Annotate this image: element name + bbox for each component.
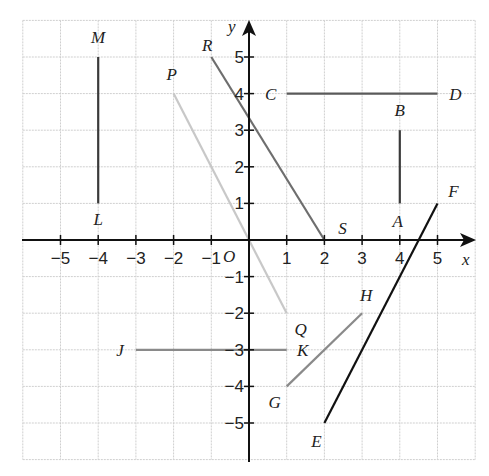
y-axis-label: y — [226, 17, 236, 36]
point-label-q: Q — [295, 320, 307, 339]
y-tick-label: −3 — [225, 341, 244, 360]
x-tick-label: −1 — [202, 249, 221, 268]
y-tick-label: −4 — [225, 377, 244, 396]
y-tick-label: 3 — [235, 121, 244, 140]
y-tick-label: −2 — [225, 304, 244, 323]
x-tick-label: −4 — [89, 249, 108, 268]
x-tick-label: 4 — [395, 249, 404, 268]
point-label-k: K — [296, 341, 310, 360]
point-label-e: E — [310, 432, 322, 451]
origin-label: O — [223, 247, 235, 266]
x-tick-label: 3 — [357, 249, 366, 268]
x-tick-label: 5 — [433, 249, 442, 268]
x-axis-label: x — [461, 250, 470, 269]
point-label-b: B — [395, 101, 406, 120]
coordinate-grid-diagram: x y O −5−4−3−2−112345 54321−1−2−3−4−5 ML… — [0, 0, 489, 476]
x-tick-label: −5 — [51, 249, 70, 268]
y-tick-label: −1 — [225, 268, 244, 287]
point-label-g: G — [269, 393, 281, 412]
point-label-a: A — [392, 212, 404, 231]
point-label-m: M — [90, 28, 106, 47]
y-tick-label: 5 — [235, 48, 244, 67]
x-tick-label: −3 — [126, 249, 145, 268]
x-tick-labels: −5−4−3−2−112345 — [51, 249, 442, 268]
x-tick-label: 1 — [282, 249, 291, 268]
x-tick-label: −2 — [164, 249, 183, 268]
point-label-h: H — [359, 286, 374, 305]
y-tick-label: 1 — [235, 194, 244, 213]
point-label-s: S — [338, 219, 347, 238]
y-tick-label: 2 — [235, 158, 244, 177]
point-label-r: R — [201, 36, 213, 55]
point-label-c: C — [265, 85, 277, 104]
point-label-f: F — [447, 182, 459, 201]
y-tick-label: 4 — [235, 85, 244, 104]
point-label-d: D — [448, 85, 462, 104]
point-label-l: L — [92, 210, 102, 229]
axes — [22, 20, 476, 462]
y-tick-label: −5 — [225, 414, 244, 433]
x-tick-label: 2 — [320, 249, 329, 268]
point-label-p: P — [165, 65, 176, 84]
